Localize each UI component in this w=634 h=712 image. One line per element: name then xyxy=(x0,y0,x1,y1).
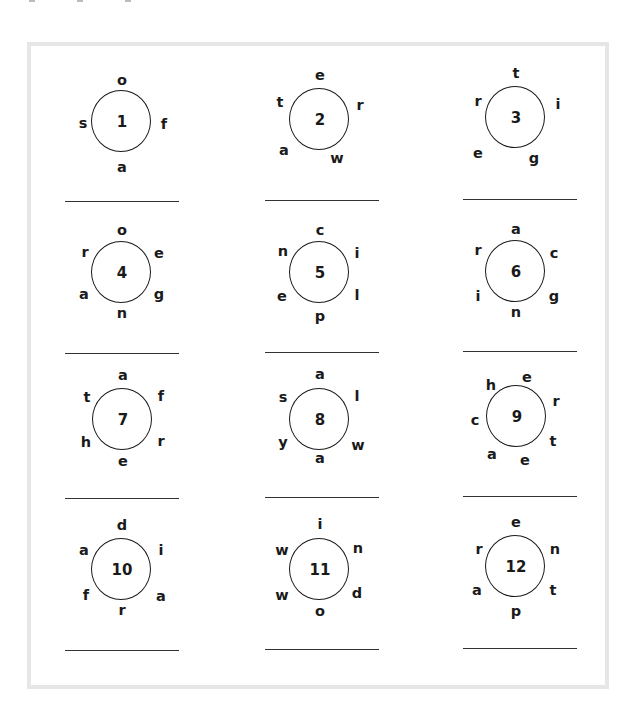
scrambled-letter: g xyxy=(149,284,169,304)
scrambled-letter: e xyxy=(310,65,330,85)
puzzle-number: 12 xyxy=(496,557,536,577)
puzzle-number: 8 xyxy=(300,410,340,430)
scrambled-letter: a xyxy=(113,365,133,385)
puzzle-number: 3 xyxy=(496,108,536,128)
scrambled-letter: p xyxy=(310,306,330,326)
scrambled-letter: i xyxy=(347,243,367,263)
scrambled-letter: p xyxy=(506,601,526,621)
scrambled-letter: e xyxy=(272,286,292,306)
answer-line[interactable] xyxy=(65,498,179,499)
scrambled-letter: r xyxy=(350,95,370,115)
answer-line[interactable] xyxy=(265,200,379,201)
scrambled-letter: a xyxy=(112,157,132,177)
scrambled-letter: o xyxy=(112,220,132,240)
scrambled-letter: f xyxy=(76,585,96,605)
scrambled-letter: e xyxy=(517,367,537,387)
scrambled-letter: h xyxy=(76,432,96,452)
scrambled-letter: o xyxy=(112,70,132,90)
scrambled-letter: a xyxy=(467,580,487,600)
scrambled-letter: e xyxy=(506,512,526,532)
answer-line[interactable] xyxy=(265,352,379,353)
answer-line[interactable] xyxy=(463,648,577,649)
scrambled-letter: a xyxy=(151,586,171,606)
scrambled-letter: y xyxy=(273,432,293,452)
scrambled-letter: d xyxy=(347,583,367,603)
scrambled-letter: a xyxy=(74,284,94,304)
scrambled-letter: f xyxy=(154,114,174,134)
scrambled-letter: f xyxy=(151,386,171,406)
scrambled-letter: w xyxy=(348,435,368,455)
scrambled-letter: r xyxy=(75,242,95,262)
scrambled-letter: s xyxy=(273,387,293,407)
answer-line[interactable] xyxy=(65,201,179,202)
puzzle-number: 1 xyxy=(102,112,142,132)
scrambled-letter: n xyxy=(273,241,293,261)
scrambled-letter: c xyxy=(544,243,564,263)
scrambled-letter: e xyxy=(515,450,535,470)
scrambled-letter: l xyxy=(347,285,367,305)
scrambled-letter: r xyxy=(112,600,132,620)
scrambled-letter: g xyxy=(524,148,544,168)
scrambled-letter: c xyxy=(310,220,330,240)
scrambled-letter: i xyxy=(310,514,330,534)
scrambled-letter: r xyxy=(151,431,171,451)
scrambled-letter: i xyxy=(548,94,568,114)
scrambled-letter: w xyxy=(272,540,292,560)
scrambled-letter: a xyxy=(310,448,330,468)
cropped-heading-remnant xyxy=(25,0,135,3)
scrambled-letter: n xyxy=(348,538,368,558)
scrambled-letter: t xyxy=(543,580,563,600)
scrambled-letter: a xyxy=(274,140,294,160)
puzzle-number: 4 xyxy=(102,263,142,283)
puzzle-number: 11 xyxy=(300,560,340,580)
scrambled-letter: n xyxy=(545,539,565,559)
scrambled-letter: n xyxy=(506,302,526,322)
scrambled-letter: e xyxy=(468,143,488,163)
scrambled-letter: h xyxy=(481,375,501,395)
scrambled-letter: c xyxy=(465,410,485,430)
scrambled-letter: s xyxy=(73,113,93,133)
answer-line[interactable] xyxy=(463,351,577,352)
puzzle-number: 10 xyxy=(102,560,142,580)
scrambled-letter: d xyxy=(112,515,132,535)
puzzle-number: 9 xyxy=(497,407,537,427)
scrambled-letter: e xyxy=(113,451,133,471)
scrambled-letter: n xyxy=(112,303,132,323)
scrambled-letter: t xyxy=(543,431,563,451)
scrambled-letter: t xyxy=(506,63,526,83)
scrambled-letter: w xyxy=(272,585,292,605)
scrambled-letter: r xyxy=(546,391,566,411)
answer-line[interactable] xyxy=(65,650,179,651)
scrambled-letter: w xyxy=(327,148,347,168)
scrambled-letter: a xyxy=(506,219,526,239)
puzzle-number: 5 xyxy=(300,263,340,283)
answer-line[interactable] xyxy=(65,353,179,354)
scrambled-letter: l xyxy=(347,386,367,406)
scrambled-letter: a xyxy=(74,540,94,560)
answer-line[interactable] xyxy=(463,199,577,200)
scrambled-letter: a xyxy=(310,364,330,384)
answer-line[interactable] xyxy=(265,649,379,650)
scrambled-letter: e xyxy=(149,243,169,263)
puzzle-number: 6 xyxy=(496,262,536,282)
scrambled-letter: o xyxy=(310,601,330,621)
puzzle-number: 2 xyxy=(300,110,340,130)
scrambled-letter: r xyxy=(468,240,488,260)
scrambled-letter: t xyxy=(270,92,290,112)
puzzle-number: 7 xyxy=(103,410,143,430)
scrambled-letter: i xyxy=(468,286,488,306)
answer-line[interactable] xyxy=(265,497,379,498)
scrambled-letter: a xyxy=(482,444,502,464)
scrambled-letter: g xyxy=(544,286,564,306)
scrambled-letter: i xyxy=(151,540,171,560)
scrambled-letter: r xyxy=(469,539,489,559)
scrambled-letter: t xyxy=(77,387,97,407)
answer-line[interactable] xyxy=(463,496,577,497)
scrambled-letter: r xyxy=(468,91,488,111)
